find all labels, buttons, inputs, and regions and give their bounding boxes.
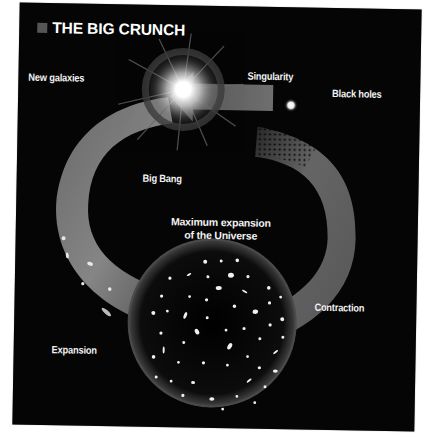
label-expansion: Expansion [52, 343, 97, 356]
label-max-expansion-line2: of the Universe [166, 228, 276, 243]
universe-sphere-icon [127, 237, 298, 411]
page-title: THE BIG CRUNCH [37, 19, 185, 40]
label-singularity: Singularity [247, 70, 293, 83]
label-contraction: Contraction [314, 301, 364, 314]
label-big-bang: Big Bang [143, 172, 182, 185]
label-max-expansion: Maximum expansion of the Universe [166, 215, 276, 243]
page: THE BIG CRUNCH New galaxies Singularity … [0, 0, 426, 439]
singularity-point-icon [284, 98, 298, 112]
label-black-holes: Black holes [332, 87, 382, 100]
label-max-expansion-line1: Maximum expansion [166, 215, 276, 230]
label-new-galaxies: New galaxies [28, 71, 84, 84]
diagram-panel: THE BIG CRUNCH New galaxies Singularity … [12, 3, 421, 432]
title-text: THE BIG CRUNCH [52, 19, 185, 39]
title-square-icon [37, 23, 47, 33]
